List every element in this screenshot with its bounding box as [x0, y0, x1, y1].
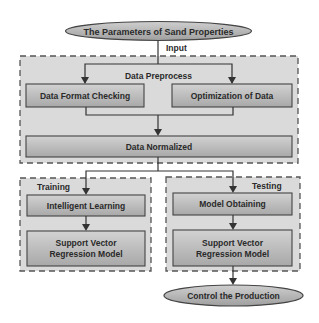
- input-label: Input: [166, 43, 187, 53]
- testing-title: Testing: [252, 181, 282, 191]
- data-format-checking-label: Data Format Checking: [40, 91, 130, 101]
- training-svr-line2: Regression Model: [49, 249, 122, 259]
- training-title: Training: [37, 182, 70, 192]
- testing-svr-line2: Regression Model: [196, 249, 269, 259]
- training-svr-line1: Support Vector: [56, 238, 118, 248]
- intelligent-learning-label: Intelligent Learning: [47, 201, 125, 211]
- preprocess-title: Data Preprocess: [125, 71, 192, 81]
- flowchart: The Parameters of Sand Properties Input …: [0, 0, 319, 323]
- data-normalized-label: Data Normalized: [126, 142, 193, 152]
- end-node-label: Control the Production: [187, 291, 280, 301]
- testing-svr-line1: Support Vector: [202, 238, 264, 248]
- optimization-of-data-label: Optimization of Data: [191, 91, 274, 101]
- arrow-icon: [229, 278, 237, 285]
- start-node-label: The Parameters of Sand Properties: [83, 27, 233, 37]
- model-obtaining-label: Model Obtaining: [199, 199, 266, 209]
